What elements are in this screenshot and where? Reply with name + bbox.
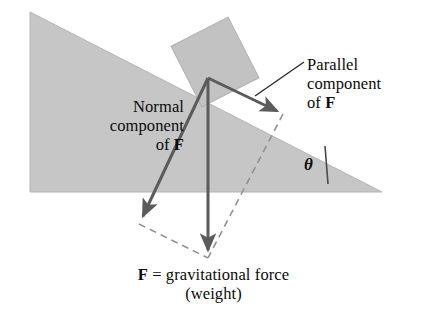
normal-component-label-line2: component: [52, 116, 184, 135]
parallel-component-label-line1: Parallel: [307, 55, 381, 74]
parallel-component-label-line3: of F: [307, 93, 381, 112]
physics-figure: Normal component of F Parallel component…: [0, 0, 427, 317]
figure-caption-line1: F = gravitational force: [0, 265, 427, 284]
normal-component-label-line3: of F: [52, 135, 184, 154]
normal-component-label-line1: Normal: [52, 97, 184, 116]
normal-component-label: Normal component of F: [52, 97, 184, 154]
caption-force-symbol: F: [138, 265, 148, 284]
figure-caption: F = gravitational force (weight): [0, 265, 427, 303]
parallel-component-label: Parallel component of F: [307, 55, 381, 112]
figure-caption-line2: (weight): [0, 284, 427, 303]
parallel-of-text: of: [307, 93, 325, 112]
normal-force-symbol: F: [174, 135, 184, 154]
parallel-label-leader-line: [255, 62, 304, 96]
parallel-force-symbol: F: [325, 93, 335, 112]
caption-equation-text: = gravitational force: [148, 265, 289, 284]
normal-of-text: of: [156, 135, 174, 154]
theta-angle-label: θ: [304, 155, 313, 174]
dashed-construction-left: [139, 224, 208, 258]
parallel-component-label-line2: component: [307, 74, 381, 93]
